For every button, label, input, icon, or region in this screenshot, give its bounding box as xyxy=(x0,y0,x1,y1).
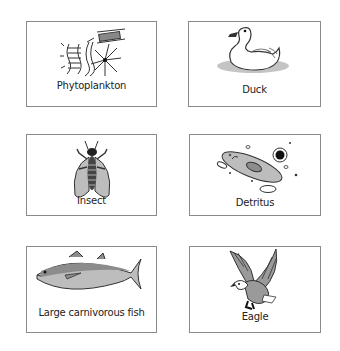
bleed-through-text xyxy=(0,0,340,14)
card-fish: Large carnivorous fish xyxy=(26,246,157,333)
card-eagle: Eagle xyxy=(189,246,321,333)
card-label: Phytoplankton xyxy=(27,80,156,91)
card-label: Large carnivorous fish xyxy=(27,307,156,318)
card-label: Insect xyxy=(27,195,156,206)
phytoplankton-icon xyxy=(27,22,158,108)
card-label: Detritus xyxy=(190,197,320,208)
fish-icon xyxy=(27,247,158,334)
card-detritus: Detritus xyxy=(189,134,321,216)
card-insect: Insect xyxy=(26,134,157,216)
card-label: Duck xyxy=(189,84,320,95)
duck-icon xyxy=(189,22,322,108)
card-phytoplankton: Phytoplankton xyxy=(26,21,157,107)
card-duck: Duck xyxy=(188,21,321,107)
card-label: Eagle xyxy=(190,311,320,322)
